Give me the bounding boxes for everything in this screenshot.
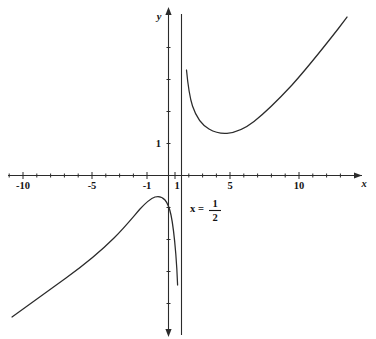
x-tick-label-5: 5	[227, 180, 232, 191]
asymptote-label-numerator: 1	[212, 198, 217, 209]
y-axis: 1 y	[155, 7, 172, 337]
x-tick-label-neg10: -10	[16, 180, 30, 191]
asymptote-label-lhs: x =	[190, 203, 204, 214]
curve-left-branch	[12, 196, 178, 317]
y-axis-arrow-down	[165, 329, 171, 337]
graph-figure: -10 -5 -1 1 5 10 x 1	[0, 0, 376, 339]
y-axis-arrow-up	[165, 7, 171, 15]
curve-right-branch	[187, 17, 348, 133]
y-tick-label-1: 1	[156, 138, 161, 149]
x-axis-label: x	[360, 178, 366, 189]
asymptote-annotation: x = 1 2	[190, 198, 221, 223]
x-tick-label-neg1: -1	[143, 180, 152, 191]
function-plot: -10 -5 -1 1 5 10 x 1	[0, 0, 376, 339]
asymptote-label-denominator: 2	[212, 212, 217, 223]
y-axis-label: y	[155, 11, 162, 22]
x-tick-label-10: 10	[294, 180, 305, 191]
x-axis: -10 -5 -1 1 5 10 x	[8, 172, 367, 191]
x-tick-label-1: 1	[174, 180, 179, 191]
x-tick-label-neg5: -5	[88, 180, 97, 191]
